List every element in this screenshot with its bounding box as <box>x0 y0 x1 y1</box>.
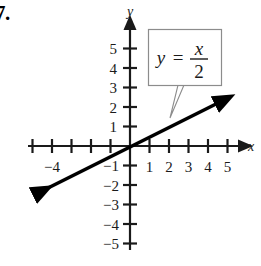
y-label-1: 1 <box>110 119 118 135</box>
math-figure: 7. <box>0 0 261 266</box>
equation-operator: = <box>173 47 184 68</box>
x-label-3: 3 <box>185 159 193 175</box>
y-label-5: 5 <box>110 41 118 57</box>
x-label-1: 1 <box>146 159 154 175</box>
y-label--4: −4 <box>103 217 119 233</box>
equation-denominator: 2 <box>194 61 204 82</box>
y-label--3: −3 <box>103 197 119 213</box>
y-label-4: 4 <box>110 61 118 77</box>
equation-lhs: y <box>155 47 166 68</box>
y-axis-label: y <box>125 4 134 19</box>
callout-pointer <box>170 85 184 118</box>
x-tick-labels: −4 1 2 3 4 5 <box>44 159 231 175</box>
x-label-5: 5 <box>224 159 232 175</box>
y-label--2: −2 <box>103 178 119 194</box>
x-axis-label: x <box>247 139 255 154</box>
y-label--5: −5 <box>103 236 119 252</box>
x-label--4: −4 <box>44 159 60 175</box>
equation-numerator: x <box>194 38 204 59</box>
x-label-2: 2 <box>165 159 173 175</box>
x-label-4: 4 <box>204 159 212 175</box>
plot-line-y-equals-x-over-2 <box>36 103 218 194</box>
y-label-2: 2 <box>110 100 118 116</box>
y-label-3: 3 <box>110 80 118 96</box>
coordinate-graph: −4 1 2 3 4 5 5 4 3 2 1 −1 −2 −3 −4 −5 x … <box>0 0 261 266</box>
